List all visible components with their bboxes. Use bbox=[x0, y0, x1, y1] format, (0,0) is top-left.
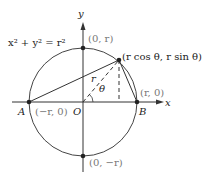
radius-oc bbox=[83, 60, 119, 102]
top-coord-label: (0, r) bbox=[88, 33, 113, 44]
point-bottom bbox=[81, 154, 86, 159]
circle-diagram: x² + y² = r² y x (0, r) (r cos θ, r sin … bbox=[0, 0, 204, 180]
point-b-coord-label: (r, 0) bbox=[140, 87, 164, 98]
bottom-coord-label: (0, −r) bbox=[89, 157, 123, 168]
origin-label: O bbox=[73, 106, 81, 117]
equation-label: x² + y² = r² bbox=[8, 37, 66, 48]
point-c-coord-label: (r cos θ, r sin θ) bbox=[122, 51, 202, 62]
point-top bbox=[81, 46, 86, 51]
point-a-coord-label: (−r, 0) bbox=[35, 106, 68, 117]
point-c bbox=[117, 58, 122, 63]
chord-cb bbox=[119, 60, 137, 102]
point-b bbox=[135, 100, 140, 105]
point-a bbox=[27, 100, 32, 105]
angle-arc bbox=[90, 94, 94, 102]
point-b-label: B bbox=[138, 106, 146, 117]
radius-label: r bbox=[91, 73, 97, 84]
point-a-label: A bbox=[17, 106, 25, 117]
y-axis-arrow-icon bbox=[81, 22, 86, 30]
x-axis-arrow-icon bbox=[156, 100, 164, 105]
x-axis-label: x bbox=[165, 97, 171, 108]
y-axis-label: y bbox=[77, 8, 84, 19]
angle-label: θ bbox=[99, 83, 105, 94]
